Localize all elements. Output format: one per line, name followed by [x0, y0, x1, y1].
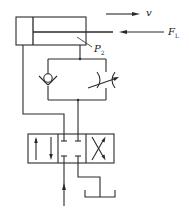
load-force-label: FL [168, 27, 179, 41]
velocity-arrow-icon [106, 12, 140, 16]
pressure-supply-line [62, 163, 66, 206]
throttle-valve-icon [88, 72, 119, 88]
directional-valve [28, 134, 114, 163]
parallel-loop [48, 59, 106, 100]
cylinder [16, 17, 113, 45]
hydraulic-circuit-diagram [0, 0, 189, 217]
check-valve-icon [39, 74, 57, 85]
tank-return-line [78, 163, 100, 197]
load-force-arrow-icon [119, 30, 164, 34]
head-side-line [23, 45, 64, 134]
velocity-label: v [146, 8, 152, 18]
pressure-label: P2 [94, 44, 105, 58]
